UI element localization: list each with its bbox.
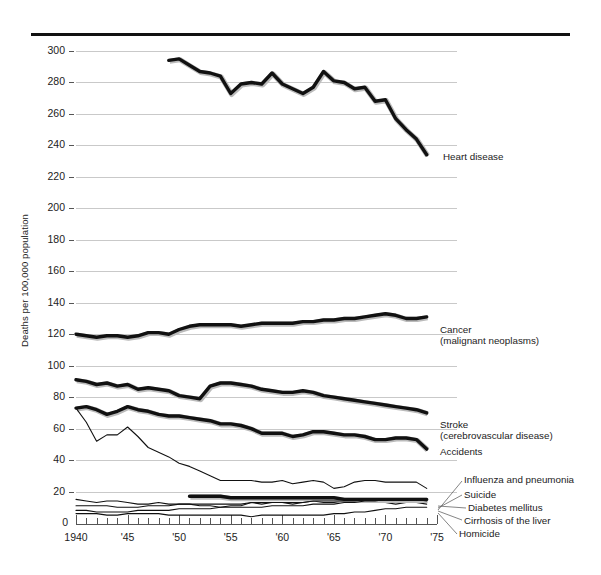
y-axis-title: Deaths per 100,000 population — [19, 186, 30, 376]
y-tick-label: 160 — [31, 264, 65, 276]
x-tick-mark — [200, 518, 201, 524]
y-tick-label: 60 — [31, 422, 65, 434]
gridline — [76, 240, 457, 241]
y-tick-label: 200 — [31, 201, 65, 213]
series-label-cancer-sub: (malignant neoplasms) — [440, 335, 539, 347]
series-label-suicide: Suicide — [464, 489, 496, 501]
x-tick-mark — [241, 518, 242, 524]
y-tick-label: 240 — [31, 138, 65, 150]
x-tick-label: '60 — [262, 531, 302, 543]
series-halo — [170, 60, 428, 156]
y-tick-label: 140 — [31, 296, 65, 308]
x-tick-mark — [406, 518, 407, 524]
x-tick-label: '65 — [314, 531, 354, 543]
series-label-influenza: Influenza and pneumonia — [464, 474, 574, 486]
x-tick-mark — [189, 518, 190, 524]
x-tick-mark — [303, 518, 304, 524]
gridline — [76, 145, 457, 146]
y-tick-mark — [69, 51, 74, 52]
x-tick-mark — [416, 518, 417, 524]
series-line — [76, 507, 427, 516]
x-tick-mark — [148, 518, 149, 524]
x-tick-label: '75 — [417, 531, 457, 543]
x-tick-mark — [293, 518, 294, 524]
x-tick-mark — [334, 515, 335, 524]
series-line — [76, 408, 427, 488]
x-tick-mark — [385, 515, 386, 524]
label-leader-line — [438, 506, 466, 508]
series-label-cancer: Cancer — [440, 324, 472, 336]
x-tick-mark — [117, 518, 118, 524]
series-line — [169, 59, 427, 155]
series-line — [76, 499, 427, 512]
x-tick-mark — [179, 515, 180, 524]
x-tick-mark — [159, 518, 160, 524]
series-line — [76, 499, 427, 507]
series-label-stroke-sub: (cerebrovascular disease) — [440, 430, 553, 442]
x-tick-mark — [169, 518, 170, 524]
x-tick-mark — [365, 518, 366, 524]
y-tick-mark — [69, 240, 74, 241]
y-tick-label: 260 — [31, 107, 65, 119]
x-tick-mark — [138, 518, 139, 524]
gridline — [76, 334, 457, 335]
x-tick-mark — [76, 515, 77, 524]
series-label-diabetes: Diabetes mellitus — [468, 502, 543, 514]
series-line — [190, 496, 427, 499]
gridline — [76, 271, 457, 272]
x-axis-line — [76, 524, 437, 525]
series-label-homicide: Homicide — [459, 528, 500, 540]
x-tick-mark — [97, 518, 98, 524]
y-tick-label: 100 — [31, 359, 65, 371]
x-tick-label: '45 — [108, 531, 148, 543]
series-line — [76, 499, 427, 507]
gridline — [76, 82, 457, 83]
x-tick-mark — [220, 518, 221, 524]
y-tick-mark — [69, 303, 74, 304]
y-tick-mark — [69, 397, 74, 398]
x-tick-mark — [354, 518, 355, 524]
gridline — [76, 366, 457, 367]
series-halo — [190, 497, 427, 500]
gridline — [76, 51, 457, 52]
y-tick-mark — [69, 429, 74, 430]
x-tick-mark — [324, 518, 325, 524]
y-tick-label: 280 — [31, 75, 65, 87]
series-label-heart-disease: Heart disease — [443, 151, 503, 163]
x-tick-label: 1940 — [56, 531, 96, 543]
x-tick-mark — [210, 518, 211, 524]
x-tick-label: '55 — [211, 531, 251, 543]
label-leader-line — [438, 495, 462, 508]
y-tick-label: 120 — [31, 327, 65, 339]
y-tick-mark — [69, 334, 74, 335]
y-tick-label: 300 — [31, 44, 65, 56]
y-tick-mark — [69, 145, 74, 146]
x-tick-mark — [437, 515, 438, 524]
x-tick-mark — [282, 515, 283, 524]
top-rule — [31, 33, 570, 36]
plot-lines — [0, 0, 601, 575]
gridline — [76, 303, 457, 304]
y-tick-mark — [69, 271, 74, 272]
y-tick-mark — [69, 208, 74, 209]
y-tick-mark — [69, 177, 74, 178]
x-tick-mark — [375, 518, 376, 524]
gridline — [76, 397, 457, 398]
label-leader-line — [438, 511, 462, 520]
x-tick-mark — [344, 518, 345, 524]
x-tick-mark — [396, 518, 397, 524]
gridline — [76, 208, 457, 209]
x-tick-mark — [313, 518, 314, 524]
y-tick-label: 180 — [31, 233, 65, 245]
y-tick-label: 80 — [31, 390, 65, 402]
gridline — [76, 492, 457, 493]
gridline — [76, 429, 457, 430]
y-tick-mark — [69, 460, 74, 461]
x-tick-mark — [427, 518, 428, 524]
y-tick-label: 20 — [31, 485, 65, 497]
y-tick-mark — [69, 114, 74, 115]
x-tick-mark — [86, 518, 87, 524]
x-tick-mark — [128, 515, 129, 524]
y-tick-label: 220 — [31, 170, 65, 182]
series-label-stroke: Stroke — [440, 419, 468, 431]
